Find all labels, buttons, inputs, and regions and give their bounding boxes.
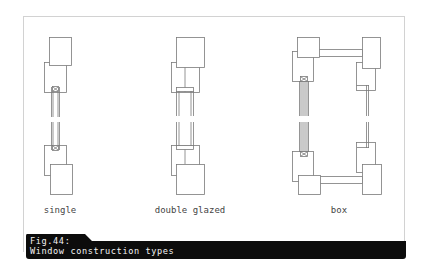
single-glass-pane [52, 87, 60, 151]
double-top-wall-block [177, 38, 205, 68]
label-double-glazed: double glazed [155, 205, 225, 215]
double-glazed-window-section [172, 38, 205, 195]
single-top-wall-block [50, 38, 72, 66]
box-window-section [293, 38, 382, 195]
figure-number: Fig.44: [30, 236, 70, 246]
single-bottom-wall-block [51, 165, 73, 195]
box-left-glass-pane [300, 77, 309, 157]
figure-caption: Fig.44: Window construction types [25, 234, 406, 259]
box-left-top-wall-block [298, 38, 320, 58]
box-top-bridge [319, 50, 363, 57]
single-window-section [45, 38, 73, 195]
box-left-bottom-wall-block [299, 176, 321, 195]
box-right-top-wall-block [363, 38, 381, 69]
double-glass-panes [177, 88, 194, 150]
box-bottom-bridge [320, 177, 363, 184]
label-single: single [44, 205, 77, 215]
label-box: box [331, 205, 347, 215]
box-right-glass-pane [357, 85, 370, 148]
box-right-bottom-wall-block [363, 165, 382, 195]
figure-title: Window construction types [30, 246, 174, 256]
double-bottom-wall-block [177, 165, 205, 195]
